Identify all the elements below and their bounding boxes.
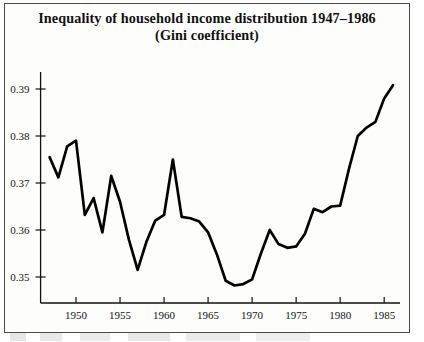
x-tick-label: 1985 — [373, 309, 396, 321]
x-tick-label: 1955 — [109, 309, 132, 321]
line-chart-plot: 0.350.360.370.380.39 1950195519601965197… — [0, 0, 424, 342]
y-tick-label: 0.39 — [10, 83, 30, 95]
gini-series-line — [50, 85, 393, 285]
y-axis: 0.350.360.370.380.39 — [10, 72, 45, 303]
x-tick-label: 1975 — [285, 309, 308, 321]
x-tick-label: 1960 — [153, 309, 176, 321]
figure-container: Inequality of household income distribut… — [0, 0, 424, 342]
x-tick-label: 1970 — [241, 309, 264, 321]
y-tick-label: 0.35 — [10, 271, 30, 283]
x-axis: 19501955196019651970197519801985 — [41, 297, 400, 321]
x-tick-label: 1950 — [65, 309, 88, 321]
x-tick-label: 1980 — [329, 309, 352, 321]
y-tick-label: 0.36 — [10, 224, 30, 236]
y-tick-label: 0.37 — [10, 177, 30, 189]
y-tick-label: 0.38 — [10, 130, 30, 142]
x-tick-label: 1965 — [197, 309, 220, 321]
